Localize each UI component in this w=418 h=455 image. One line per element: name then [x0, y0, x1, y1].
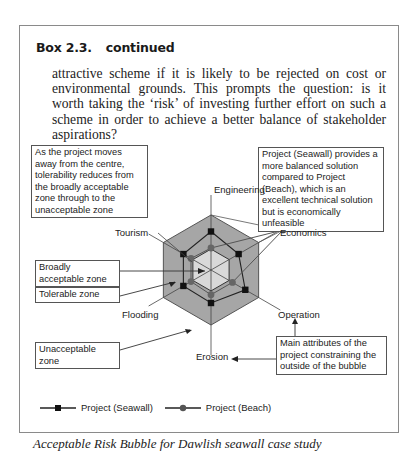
data-point-seawall [180, 283, 186, 289]
centre-note: As the project moves away from the centr… [31, 145, 148, 218]
broadly-acceptable-label: Broadly acceptable zone [35, 260, 120, 287]
data-point-seawall [208, 300, 214, 306]
seawall-note: Project (Seawall) provides a more balanc… [258, 147, 384, 232]
data-point-beach [188, 278, 195, 285]
axis-label-tourism: Tourism [115, 227, 148, 238]
unacceptable-pointer [120, 330, 190, 350]
axis-label-economics: Economics [280, 227, 326, 238]
data-point-beach [208, 291, 215, 298]
axis-label-erosion: Erosion [196, 351, 228, 362]
data-point-seawall [208, 228, 214, 234]
data-point-seawall [242, 287, 248, 293]
unacceptable-arrowhead-icon [185, 329, 192, 334]
data-point-beach [208, 245, 215, 252]
axis-label-engineering: Engineering [214, 184, 265, 195]
data-point-beach [229, 279, 236, 286]
data-point-seawall [235, 251, 241, 257]
axis-label-flooding: Flooding [122, 309, 158, 320]
unacceptable-label: Unacceptable zone [35, 342, 120, 369]
erosion-arrowhead-icon [231, 356, 238, 362]
tolerable-label: Tolerable zone [35, 287, 120, 303]
main-attributes-note: Main attributes of the project constrain… [276, 336, 387, 375]
axis-label-operation: Operation [278, 309, 320, 320]
